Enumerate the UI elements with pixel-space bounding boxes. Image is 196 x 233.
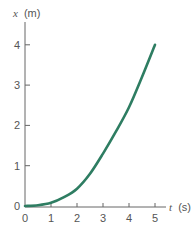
x-tick-label: 5 — [152, 212, 158, 224]
x-tick-label: 0 — [22, 212, 28, 224]
x-tick-label: 4 — [126, 212, 132, 224]
x-axis-var: t — [169, 201, 173, 213]
y-tick-label: 0 — [14, 200, 20, 212]
x-tick-label: 2 — [74, 212, 80, 224]
y-ticks: 01234 — [14, 39, 30, 212]
y-tick-label: 1 — [14, 160, 20, 172]
x-axis-label: t (s) — [169, 201, 191, 213]
y-axis-var: x — [12, 7, 18, 19]
x-tick-label: 1 — [48, 212, 54, 224]
y-axis-unit: (m) — [24, 7, 41, 19]
x-tick-label: 3 — [100, 212, 106, 224]
position-time-chart: 01234 012345 x (m) t (s) — [0, 0, 196, 233]
x-ticks: 012345 — [22, 203, 158, 224]
position-curve — [25, 45, 155, 206]
axes — [25, 22, 166, 207]
y-tick-label: 2 — [14, 119, 20, 131]
y-tick-label: 3 — [14, 79, 20, 91]
y-axis-label: x (m) — [12, 7, 40, 19]
x-axis-unit: (s) — [178, 201, 191, 213]
y-tick-label: 4 — [14, 39, 20, 51]
